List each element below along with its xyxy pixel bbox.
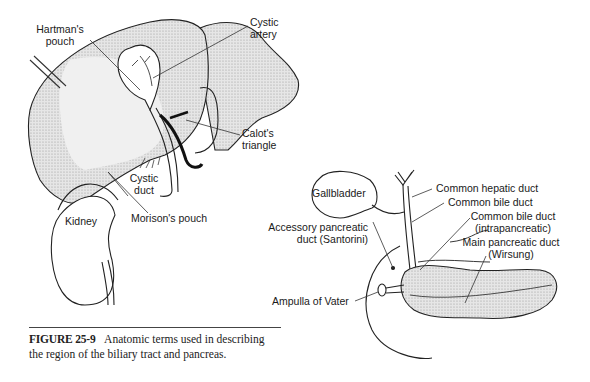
label-common-bile-duct: Common bile duct (448, 197, 533, 209)
label-cystic-duct: Cystic duct (126, 173, 162, 196)
label-text: Cystic (250, 17, 279, 29)
caption-rule (29, 327, 281, 328)
label-text: Main pancreatic duct (459, 237, 563, 249)
label-text: Hartman's (30, 24, 90, 36)
figure-number: FIGURE 25-9 (29, 333, 95, 345)
label-cystic-artery: Cystic artery (250, 17, 279, 40)
caption-line-1: Anatomic terms used in describing (104, 333, 264, 345)
label-text: duct (126, 185, 162, 197)
liver-illustration (28, 20, 298, 305)
label-hartmans-pouch: Hartman's pouch (30, 24, 90, 47)
label-text: (Wirsung) (459, 249, 563, 261)
label-calots-triangle: Calot's triangle (242, 128, 276, 151)
label-text: duct (Santorini) (262, 234, 368, 246)
caption-line-2: the region of the biliary tract and panc… (29, 348, 226, 360)
label-kidney: Kidney (65, 216, 97, 228)
label-text: Calot's (242, 128, 276, 140)
label-common-bile-duct-intrapancreatic: Common bile duct (intrapancreatic) (465, 211, 561, 234)
figure-caption: FIGURE 25-9 Anatomic terms used in descr… (29, 332, 289, 362)
label-accessory-pancreatic-duct: Accessory pancreatic duct (Santorini) (262, 222, 368, 245)
label-ampulla-of-vater: Ampulla of Vater (272, 296, 349, 308)
label-text: Cystic (126, 173, 162, 185)
label-main-pancreatic-duct: Main pancreatic duct (Wirsung) (459, 237, 563, 260)
label-text: (intrapancreatic) (465, 223, 561, 235)
label-text: Common bile duct (465, 211, 561, 223)
label-text: Accessory pancreatic (262, 222, 368, 234)
label-text: pouch (30, 36, 90, 48)
label-morisons-pouch: Morison's pouch (131, 213, 207, 225)
label-gallbladder: Gallbladder (312, 188, 366, 200)
label-text: artery (250, 29, 279, 41)
label-text: triangle (242, 140, 276, 152)
label-common-hepatic-duct: Common hepatic duct (436, 183, 538, 195)
